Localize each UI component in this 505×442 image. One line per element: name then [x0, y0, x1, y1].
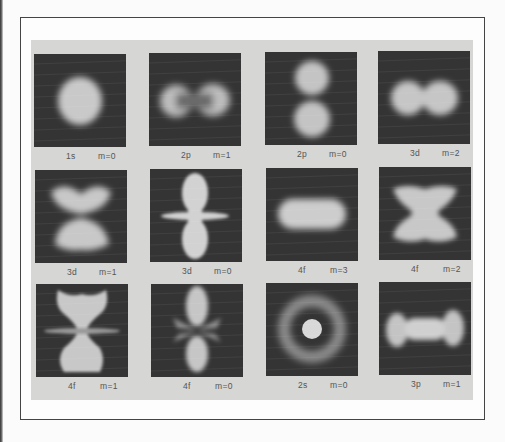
orbital-label: 4f — [411, 264, 419, 274]
plate-caption: 4f m=3 — [266, 265, 358, 279]
orbital-image — [378, 51, 470, 144]
orbital-label: 3p — [411, 379, 421, 389]
orbital-shape-sphere — [34, 54, 126, 147]
plate-caption: 1s m=0 — [34, 151, 126, 165]
orbital-shape-vertical-lobes-with-cones — [151, 284, 243, 377]
orbital-label: 4f — [298, 265, 306, 275]
magnetic-number-label: m=3 — [330, 265, 348, 275]
orbital-image — [266, 283, 358, 376]
magnetic-number-label: m=1 — [213, 150, 231, 160]
magnetic-number-label: m=1 — [100, 381, 118, 391]
orbital-shape-bowtie — [35, 170, 127, 263]
orbital-shape-hourglass-with-ring — [36, 284, 128, 377]
orbital-image — [35, 170, 127, 263]
orbital-image — [150, 169, 242, 262]
plate-caption: 3d m=2 — [378, 148, 470, 162]
plate-caption: 3p m=1 — [379, 379, 471, 393]
orbital-image — [149, 53, 241, 146]
orbital-label: 2s — [298, 380, 308, 390]
orbital-image — [379, 167, 471, 260]
orbital-shape-horizontal-double-lobe — [378, 51, 470, 144]
orbital-label: 3d — [410, 148, 420, 158]
plate-caption: 4f m=2 — [379, 264, 471, 278]
orbital-image — [34, 54, 126, 147]
orbital-shape-horizontal-dumbbell — [149, 53, 241, 146]
magnetic-number-label: m=1 — [443, 379, 461, 389]
plate-caption: 4f m=1 — [36, 381, 128, 395]
orbital-shape-dumbbell-with-bar — [379, 282, 471, 375]
orbital-label: 4f — [183, 381, 191, 391]
orbital-image — [265, 52, 357, 145]
orbital-label: 3d — [67, 267, 77, 277]
magnetic-number-label: m=2 — [442, 148, 460, 158]
plate-caption: 3d m=0 — [150, 266, 242, 280]
magnetic-number-label: m=1 — [99, 267, 117, 277]
magnetic-number-label: m=0 — [329, 149, 347, 159]
orbital-image — [379, 282, 471, 375]
plate-caption: 3d m=1 — [35, 267, 127, 281]
orbital-label: 3d — [182, 266, 192, 276]
orbital-label: 1s — [66, 151, 76, 161]
orbital-label: 2p — [181, 150, 191, 160]
magnetic-number-label: m=0 — [98, 151, 116, 161]
plate-caption: 2s m=0 — [266, 380, 358, 394]
orbital-shape-vertical-dumbbell — [265, 52, 357, 145]
plate-caption: 4f m=0 — [151, 381, 243, 395]
magnetic-number-label: m=0 — [214, 266, 232, 276]
magnetic-number-label: m=0 — [215, 381, 233, 391]
orbital-shape-x-cross — [379, 167, 471, 260]
magnetic-number-label: m=2 — [443, 264, 461, 274]
plate-caption: 2p m=0 — [265, 149, 357, 163]
orbital-label: 4f — [68, 381, 76, 391]
orbital-image — [266, 168, 358, 261]
orbital-image — [36, 284, 128, 377]
orbital-label: 2p — [297, 149, 307, 159]
orbital-image — [151, 284, 243, 377]
orbital-shape-oblong — [266, 168, 358, 261]
plate-caption: 2p m=1 — [149, 150, 241, 164]
page-edge-shadow — [0, 0, 3, 442]
orbital-shape-dz2-lobes-with-ring — [150, 169, 242, 262]
orbital-shape-core-with-ring — [266, 283, 358, 376]
orbital-figure-panel: 1s m=0 2p m=1 — [31, 40, 473, 400]
magnetic-number-label: m=0 — [330, 380, 348, 390]
